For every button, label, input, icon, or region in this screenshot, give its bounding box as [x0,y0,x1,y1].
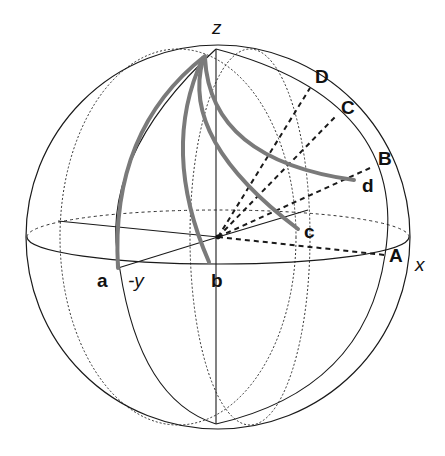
curve-b [183,58,209,262]
meridian-back-left [60,49,296,425]
label-A: A [389,245,403,266]
label-c: c [304,221,315,242]
equator-front [27,237,409,264]
label-a: a [97,270,108,291]
center-point [216,235,221,240]
label-d: d [362,175,374,196]
meridian-A [216,49,388,424]
label-D: D [315,66,329,87]
label-neg-y: -y [128,270,145,291]
label-x: x [414,254,426,275]
label-B: B [378,148,392,169]
label-z: z [211,17,222,38]
meridian-back-right [190,49,310,425]
label-b: b [211,270,223,291]
trajectory-curves [117,56,354,268]
label-C: C [341,97,355,118]
sphere-diagram: z x -y A B C D a b c d [0,0,445,456]
